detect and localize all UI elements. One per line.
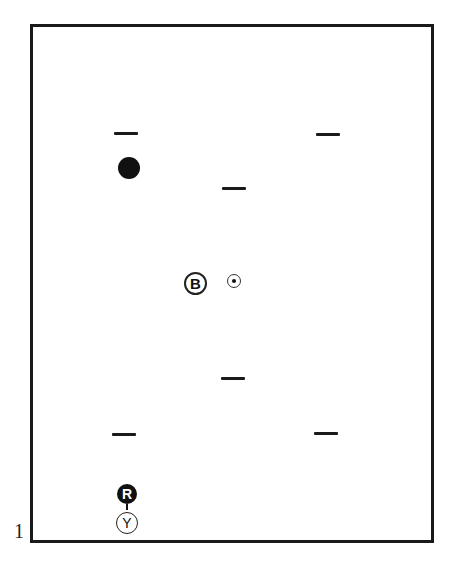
ball-b-label: B [190, 275, 201, 292]
spot-marker-top-right [316, 133, 340, 136]
ball-r-label: R [122, 486, 132, 502]
ball-r: R [117, 484, 137, 504]
ball-b: B [184, 272, 207, 295]
spot-marker-top-left [114, 132, 138, 135]
target-spot-icon [227, 274, 241, 288]
spot-marker-bottom-right [314, 432, 338, 435]
spot-marker-lower-center [221, 377, 245, 380]
ball-y-label: Y [122, 515, 131, 531]
spot-marker-bottom-left [112, 433, 136, 436]
ball-y: Y [116, 512, 138, 534]
solid-ball [118, 157, 140, 179]
spot-marker-upper-center [222, 187, 246, 190]
ball-connector [126, 504, 128, 510]
figure-number: 1 [14, 520, 24, 543]
